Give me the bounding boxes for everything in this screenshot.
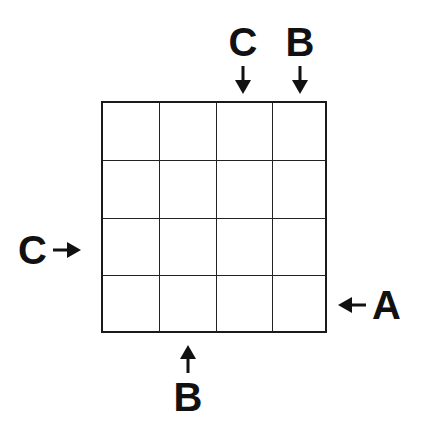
clue-letter: B — [174, 377, 203, 417]
grid-cell-r3-c3[interactable] — [217, 219, 273, 276]
grid-cell-r2-c2[interactable] — [160, 161, 217, 219]
grid-cell-r2-c3[interactable] — [217, 161, 273, 219]
arrow-down-icon — [292, 66, 308, 94]
grid-cell-r2-c4[interactable] — [273, 161, 325, 219]
grid-cell-r4-c3[interactable] — [217, 276, 273, 331]
top-clue-col-4: B — [280, 22, 320, 94]
grid-cell-r3-c2[interactable] — [160, 219, 217, 276]
grid-cell-r4-c2[interactable] — [160, 276, 217, 331]
clue-letter: A — [372, 285, 401, 325]
arrow-left-icon — [338, 297, 366, 313]
grid-cell-r3-c4[interactable] — [273, 219, 325, 276]
grid-cell-r1-c4[interactable] — [273, 103, 325, 161]
top-clue-col-3: C — [223, 22, 263, 94]
bottom-clue-col-2: B — [168, 345, 208, 417]
arrow-down-icon — [235, 66, 251, 94]
arrow-up-icon — [180, 345, 196, 373]
right-clue-row-4: A — [338, 285, 401, 325]
puzzle-grid — [101, 101, 327, 333]
grid-cell-r4-c4[interactable] — [273, 276, 325, 331]
grid-cell-r1-c2[interactable] — [160, 103, 217, 161]
grid-cell-r1-c1[interactable] — [103, 103, 160, 161]
grid-cell-r4-c1[interactable] — [103, 276, 160, 331]
grid-cell-r3-c1[interactable] — [103, 219, 160, 276]
arrow-right-icon — [53, 242, 81, 258]
clue-letter: B — [286, 22, 315, 62]
clue-letter: C — [229, 22, 258, 62]
clue-letter: C — [18, 230, 47, 270]
grid-cell-r2-c1[interactable] — [103, 161, 160, 219]
left-clue-row-3: C — [18, 230, 81, 270]
grid-cell-r1-c3[interactable] — [217, 103, 273, 161]
